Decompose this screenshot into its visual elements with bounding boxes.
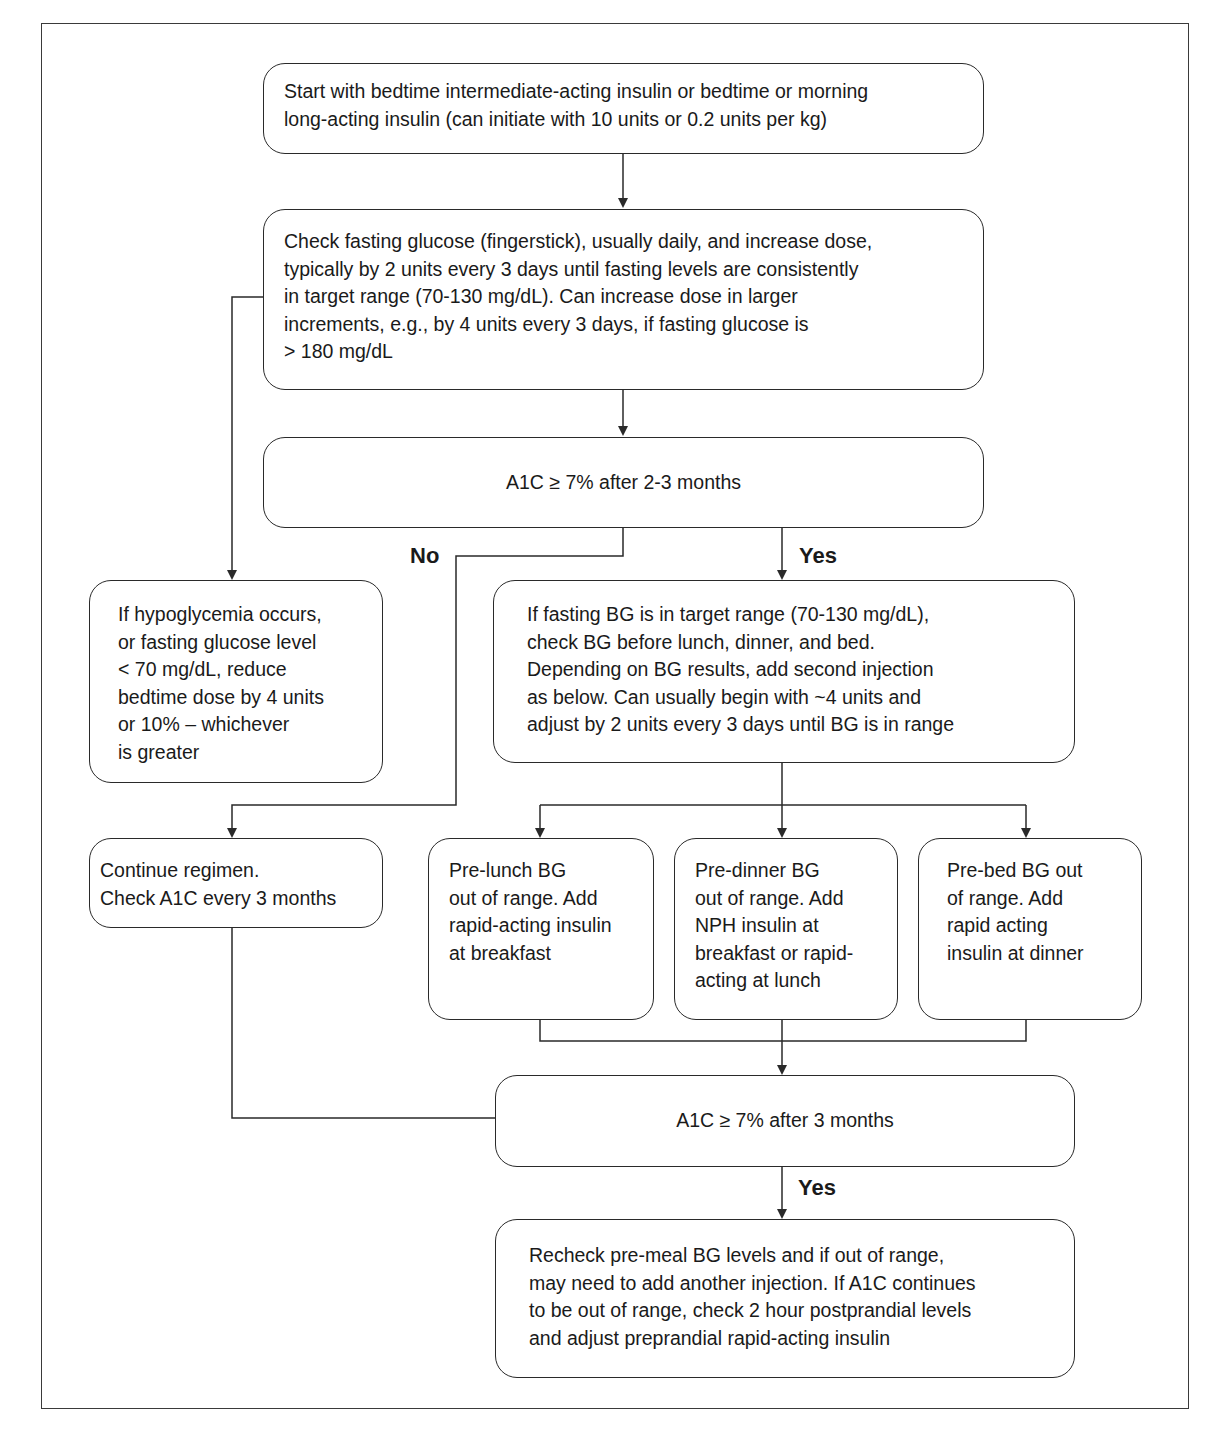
node-text-line: or 10% – whichever: [118, 711, 362, 739]
node-text-line: > 180 mg/dL: [284, 338, 963, 366]
node-text-line: and adjust preprandial rapid-acting insu…: [529, 1325, 1054, 1353]
node-text-line: acting at lunch: [695, 967, 877, 995]
node-text-line: out of range. Add: [449, 885, 633, 913]
edge-check-to-hypoglycemia: [232, 297, 264, 572]
arrowhead: [227, 828, 237, 838]
node-text-line: breakfast or rapid-: [695, 940, 877, 968]
edge-label-yes-1: Yes: [799, 543, 837, 569]
arrowhead: [777, 828, 787, 838]
node-hypoglycemia: If hypoglycemia occurs, or fasting gluco…: [89, 580, 383, 783]
node-recheck: Recheck pre-meal BG levels and if out of…: [495, 1219, 1075, 1378]
node-text-line: as below. Can usually begin with ~4 unit…: [527, 684, 1054, 712]
node-text-line: Check A1C every 3 months: [100, 885, 362, 913]
edge-label-no: No: [410, 543, 439, 569]
node-text-line: Start with bedtime intermediate-acting i…: [284, 78, 963, 106]
arrowhead: [618, 198, 628, 208]
node-text-line: is greater: [118, 739, 362, 767]
node-text: A1C ≥ 7% after 2-3 months: [506, 469, 741, 497]
node-text-line: < 70 mg/dL, reduce: [118, 656, 362, 684]
arrowhead: [535, 828, 545, 838]
node-fasting-in-range: If fasting BG is in target range (70-130…: [493, 580, 1075, 763]
node-text-line: If hypoglycemia occurs,: [118, 601, 362, 629]
arrowhead: [777, 1065, 787, 1075]
node-text-line: Pre-dinner BG: [695, 857, 877, 885]
node-text-line: of range. Add: [947, 885, 1121, 913]
node-text-line: Continue regimen.: [100, 857, 362, 885]
node-text-line: typically by 2 units every 3 days until …: [284, 256, 963, 284]
node-text-line: Pre-bed BG out: [947, 857, 1121, 885]
node-text-line: check BG before lunch, dinner, and bed.: [527, 629, 1054, 657]
node-text-line: in target range (70-130 mg/dL). Can incr…: [284, 283, 963, 311]
node-text-line: rapid-acting insulin: [449, 912, 633, 940]
node-pre-dinner: Pre-dinner BG out of range. Add NPH insu…: [674, 838, 898, 1020]
node-text-line: Depending on BG results, add second inje…: [527, 656, 1054, 684]
node-text-line: increments, e.g., by 4 units every 3 day…: [284, 311, 963, 339]
node-pre-bed: Pre-bed BG out of range. Add rapid actin…: [918, 838, 1142, 1020]
node-text-line: If fasting BG is in target range (70-130…: [527, 601, 1054, 629]
arrowhead: [227, 570, 237, 580]
node-text-line: may need to add another injection. If A1…: [529, 1270, 1054, 1298]
node-pre-lunch: Pre-lunch BG out of range. Add rapid-act…: [428, 838, 654, 1020]
arrowhead: [1021, 828, 1031, 838]
node-text-line: out of range. Add: [695, 885, 877, 913]
node-text-line: at breakfast: [449, 940, 633, 968]
node-text-line: or fasting glucose level: [118, 629, 362, 657]
node-start: Start with bedtime intermediate-acting i…: [263, 63, 984, 154]
node-text-line: Check fasting glucose (fingerstick), usu…: [284, 228, 963, 256]
node-continue-regimen: Continue regimen. Check A1C every 3 mont…: [89, 838, 383, 928]
edge-merge: [540, 1019, 1026, 1041]
node-text-line: long-acting insulin (can initiate with 1…: [284, 106, 963, 134]
arrowhead: [777, 1209, 787, 1219]
node-text: A1C ≥ 7% after 3 months: [676, 1107, 894, 1135]
node-text-line: adjust by 2 units every 3 days until BG …: [527, 711, 1054, 739]
arrowhead: [777, 570, 787, 580]
node-text-line: Pre-lunch BG: [449, 857, 633, 885]
node-a1c-decision-1: A1C ≥ 7% after 2-3 months: [263, 437, 984, 528]
node-text-line: Recheck pre-meal BG levels and if out of…: [529, 1242, 1054, 1270]
edge-label-yes-2: Yes: [798, 1175, 836, 1201]
node-text-line: bedtime dose by 4 units: [118, 684, 362, 712]
node-text-line: NPH insulin at: [695, 912, 877, 940]
node-text-line: rapid acting: [947, 912, 1121, 940]
node-text-line: to be out of range, check 2 hour postpra…: [529, 1297, 1054, 1325]
arrowhead: [618, 426, 628, 436]
node-a1c-decision-2: A1C ≥ 7% after 3 months: [495, 1075, 1075, 1167]
node-check-fasting: Check fasting glucose (fingerstick), usu…: [263, 209, 984, 390]
node-text-line: insulin at dinner: [947, 940, 1121, 968]
